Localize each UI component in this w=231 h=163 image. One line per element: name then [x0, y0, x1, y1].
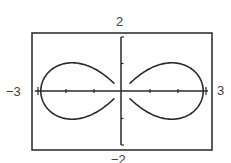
- axes: [35, 37, 208, 145]
- x-min-label: −3: [6, 85, 21, 98]
- y-min-label: −2: [111, 153, 126, 163]
- y-max-label: 2: [116, 15, 123, 28]
- x-max-label: 3: [217, 84, 224, 97]
